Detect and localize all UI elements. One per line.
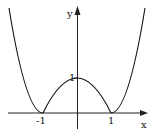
curve-left-branch [9,8,43,113]
x-tick-label-pos1: 1 [108,115,114,126]
x-axis-arrow-icon [140,110,148,116]
graph-canvas: y x -1 1 1 [0,0,155,137]
y-tick-label-1: 1 [69,72,75,83]
x-tick-label-neg1: -1 [36,115,46,126]
x-axis-label: x [141,119,147,130]
y-axis-arrow-icon [75,6,81,15]
curve-right-branch [111,8,145,113]
y-axis-label: y [66,8,73,19]
